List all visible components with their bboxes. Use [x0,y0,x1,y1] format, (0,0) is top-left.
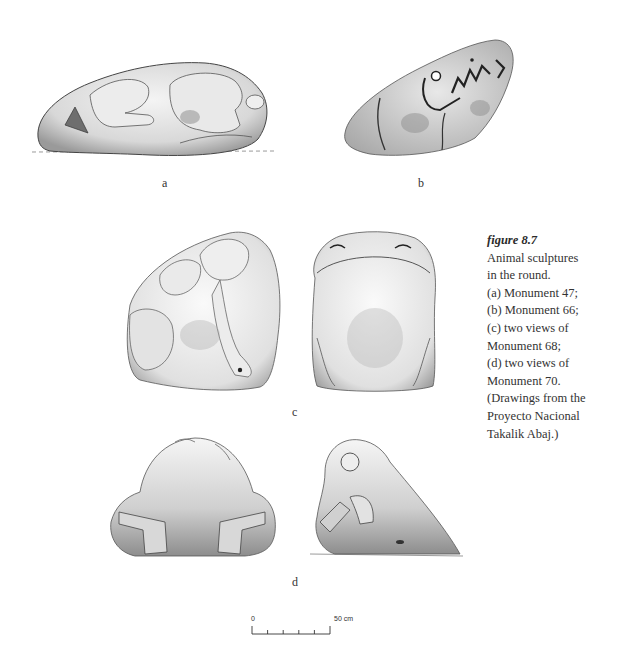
caption-line: Proyecto Nacional [487,408,619,426]
scale-bar: 0 50 cm [247,610,367,640]
caption-line: Takalik Abaj.) [487,426,619,444]
scale-start-label: 0 [251,615,255,622]
caption-line: Animal sculptures [487,250,619,268]
caption-line: in the round. [487,267,619,285]
figure-number: figure 8.7 [487,232,619,250]
caption-line: (Drawings from the [487,390,619,408]
drawing-monument-66 [340,38,520,158]
caption-line: (a) Monument 47; [487,285,619,303]
drawing-monument-70-front-view [105,432,280,562]
panel-label-d: d [292,575,298,590]
caption-line: (b) Monument 66; [487,302,619,320]
panel-label-a: a [162,176,167,191]
caption-line: Monument 68; [487,338,619,356]
scale-end-label: 50 cm [334,615,353,622]
figure-caption: figure 8.7 Animal sculptures in the roun… [487,232,619,443]
caption-line: Monument 70. [487,373,619,391]
drawing-monument-70-side-view [305,432,465,562]
caption-line: (d) two views of [487,355,619,373]
panel-label-b: b [418,176,424,191]
drawing-monument-68-front-view [305,228,440,398]
scale-ruler-icon [247,624,347,636]
caption-line: (c) two views of [487,320,619,338]
panel-label-c: c [292,405,297,420]
drawing-monument-68-side-view [120,225,290,395]
drawing-monument-47 [30,55,280,165]
